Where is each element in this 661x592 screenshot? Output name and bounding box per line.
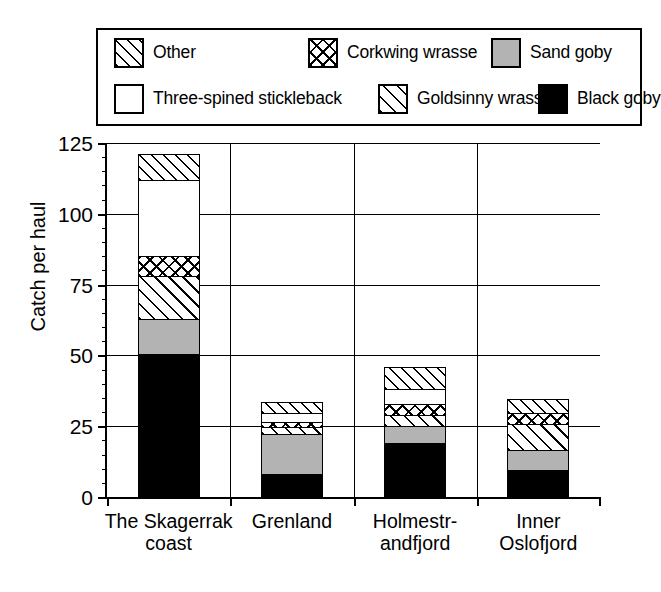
bar-segment-goldsinny-wrasse[interactable] [384,415,446,426]
y-axis-major-tick [98,143,107,145]
y-axis-label: Catch per haul [27,167,50,367]
y-axis-minor-tick [102,299,107,300]
bar-segment-sand-goby[interactable] [384,426,446,443]
x-axis-tick [599,497,601,506]
y-axis-minor-tick [102,384,107,385]
bar-segment-goldsinny-wrasse[interactable] [261,427,323,434]
x-axis-tick [230,497,232,506]
y-axis-minor-tick [102,483,107,484]
bar-holmestr-andfjord[interactable] [384,367,446,497]
y-axis-minor-tick [102,185,107,186]
y-axis-tick-label: 25 [70,416,93,437]
bar-segment-other[interactable] [384,367,446,390]
y-axis-major-tick [98,214,107,216]
bar-segment-sand-goby[interactable] [261,434,323,474]
x-axis-category-label: Inner Oslofjord [448,511,628,555]
bar-segment-three-spined-stickleback[interactable] [384,389,446,403]
bar-segment-corkwing-wrasse[interactable] [384,404,446,415]
y-axis-minor-tick [102,469,107,470]
y-axis-minor-tick [102,242,107,243]
bar-segment-black-goby[interactable] [507,470,569,497]
bar-segment-other[interactable] [138,154,200,179]
y-axis-minor-tick [102,270,107,271]
bar-segment-other[interactable] [507,399,569,413]
bar-segment-corkwing-wrasse[interactable] [138,256,200,276]
x-axis-tick [354,497,356,506]
y-axis-major-tick [98,497,107,499]
y-axis-tick-label: 50 [70,345,93,366]
bar-inner-oslofjord[interactable] [507,399,569,497]
y-axis-minor-tick [102,256,107,257]
bar-grenland[interactable] [261,402,323,497]
bar-the-skagerrak-coast[interactable] [138,154,200,497]
y-axis-minor-tick [102,171,107,172]
plot-area: 0255075100125The Skagerrak coastGrenland… [105,143,600,499]
bar-segment-three-spined-stickleback[interactable] [138,180,200,256]
y-axis-minor-tick [102,398,107,399]
y-axis-minor-tick [102,228,107,229]
bar-segment-black-goby[interactable] [384,443,446,497]
category-separator [477,143,478,497]
y-axis-tick-label: 125 [58,133,93,154]
y-axis-tick-label: 0 [81,487,93,508]
bar-segment-goldsinny-wrasse[interactable] [138,276,200,318]
category-separator [354,143,355,497]
y-axis-minor-tick [102,412,107,413]
y-axis-minor-tick [102,440,107,441]
y-axis-tick-label: 100 [58,203,93,224]
y-axis-major-tick [98,355,107,357]
y-axis-major-tick [98,285,107,287]
bar-segment-other[interactable] [261,402,323,414]
y-axis-minor-tick [102,157,107,158]
bar-segment-sand-goby[interactable] [507,450,569,470]
y-axis-minor-tick [102,341,107,342]
x-axis-tick [107,497,109,506]
x-axis-tick [477,497,479,506]
y-axis-minor-tick [102,370,107,371]
bar-segment-sand-goby[interactable] [138,319,200,354]
y-axis-minor-tick [102,327,107,328]
bar-segment-black-goby[interactable] [261,474,323,497]
category-separator [230,143,231,497]
bar-segment-goldsinny-wrasse[interactable] [507,424,569,450]
y-axis-tick-label: 75 [70,274,93,295]
y-axis-minor-tick [102,455,107,456]
bar-segment-corkwing-wrasse[interactable] [507,413,569,424]
bar-segment-three-spined-stickleback[interactable] [261,413,323,421]
bar-segment-black-goby[interactable] [138,354,200,497]
y-axis-minor-tick [102,200,107,201]
y-axis-major-tick [98,426,107,428]
y-axis-minor-tick [102,313,107,314]
